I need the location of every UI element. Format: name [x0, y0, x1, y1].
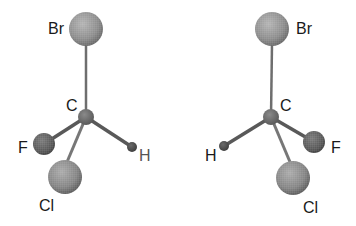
atom-f	[33, 133, 55, 155]
label-h: H	[139, 147, 151, 164]
atom-h	[127, 142, 137, 152]
label-h: H	[205, 147, 217, 164]
atom-br	[69, 12, 103, 46]
bond-c-h	[86, 117, 132, 147]
bond-c-h	[224, 117, 271, 146]
label-c: C	[280, 97, 292, 114]
label-br: Br	[296, 20, 313, 37]
label-c: C	[66, 97, 78, 114]
atom-cl	[276, 161, 310, 195]
atom-cl	[48, 160, 82, 194]
atom-c	[78, 109, 94, 125]
atom-br	[255, 12, 289, 46]
label-f: F	[331, 139, 341, 156]
atom-h	[219, 141, 229, 151]
label-cl: Cl	[39, 197, 54, 214]
molecule-right: Br C H F Cl	[205, 12, 341, 216]
label-f: F	[18, 139, 28, 156]
atom-c	[263, 109, 279, 125]
molecule-diagram: Br C F H Cl Br C H	[0, 0, 356, 226]
atom-f	[303, 131, 325, 153]
bond-c-br	[271, 44, 272, 117]
label-br: Br	[48, 20, 65, 37]
molecule-left: Br C F H Cl	[18, 12, 151, 214]
label-cl: Cl	[303, 199, 318, 216]
